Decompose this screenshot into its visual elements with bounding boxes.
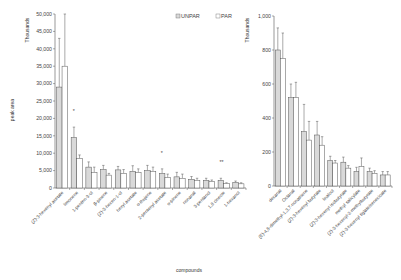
bar-par	[150, 171, 156, 188]
bar-par	[333, 163, 338, 186]
bar-unpar	[218, 180, 224, 188]
significance-marker: **	[220, 159, 224, 165]
y-tick-label: 45,000	[36, 28, 52, 34]
bar-par	[280, 59, 285, 187]
y-axis-label: peak area	[9, 99, 15, 121]
y-tick-label: 200	[262, 149, 271, 155]
legend: UNPAR PAR	[176, 13, 232, 19]
category-label: α-pinene	[166, 190, 183, 207]
bar-par	[320, 145, 325, 186]
left-bar-chart: 05,00010,00015,00020,00025,00030,00035,0…	[30, 11, 246, 225]
significance-marker: *	[73, 108, 75, 114]
bar-unpar	[86, 167, 92, 188]
y-tick-label: 5,000	[39, 167, 52, 173]
bar-unpar	[56, 87, 62, 188]
bar-unpar	[288, 98, 293, 186]
bar-unpar	[275, 50, 280, 186]
bar-unpar	[159, 173, 165, 188]
bar-unpar	[203, 180, 209, 188]
bar-unpar	[233, 182, 239, 188]
y-tick-label: 0	[49, 185, 52, 191]
bar-par	[293, 98, 298, 186]
y-tick-label: 10,000	[36, 150, 52, 156]
y-tick-label: 40,000	[36, 46, 52, 52]
bar-par	[307, 140, 312, 186]
bar-par	[194, 180, 200, 188]
significance-marker: *	[161, 150, 163, 156]
y-tick-label: 50,000	[36, 11, 52, 17]
bar-par	[91, 172, 97, 188]
bar-par	[136, 172, 142, 188]
bar-unpar	[189, 179, 195, 188]
legend-label-par: PAR	[221, 13, 232, 19]
bar-par	[165, 178, 171, 188]
bar-par	[359, 166, 364, 186]
bar-unpar	[145, 171, 151, 188]
bar-par	[62, 66, 68, 188]
bar-unpar	[130, 171, 136, 188]
y-tick-label: 0	[268, 183, 271, 189]
bar-unpar	[302, 132, 307, 186]
y-tick-label: 30,000	[36, 80, 52, 86]
bar-unpar	[71, 138, 77, 188]
category-label: 2-pentenyl acetate	[137, 190, 168, 221]
bar-par	[121, 173, 127, 188]
legend-swatch-par	[216, 14, 220, 18]
bar-unpar	[380, 175, 385, 186]
y-tick-label: 1,000	[258, 13, 271, 19]
bar-par	[238, 184, 244, 188]
bar-unpar	[367, 172, 372, 186]
right-y-unit: Thousands	[244, 17, 250, 42]
y-tick-label: 800	[262, 47, 271, 53]
legend-swatch-unpar	[176, 14, 180, 18]
category-label: (Z)-3-hexenyl acetate	[30, 190, 65, 225]
y-tick-label: 600	[262, 81, 271, 87]
chart-canvas: 05,00010,00015,00020,00025,00030,00035,0…	[0, 0, 401, 280]
category-label: decanal	[268, 188, 283, 203]
left-y-unit: Thousands	[24, 17, 30, 42]
category-label: 1-hexanol	[223, 190, 241, 208]
bar-unpar	[174, 177, 180, 188]
bar-unpar	[315, 135, 320, 186]
bar-unpar	[101, 170, 107, 188]
bar-unpar	[341, 162, 346, 186]
bar-par	[180, 178, 186, 188]
bar-par	[224, 183, 230, 188]
bar-par	[77, 158, 83, 188]
bar-par	[209, 181, 215, 188]
y-tick-label: 15,000	[36, 133, 52, 139]
y-tick-label: 35,000	[36, 63, 52, 69]
bar-par	[346, 168, 351, 186]
bar-par	[106, 175, 112, 188]
bar-par	[372, 173, 377, 186]
category-label: (E)-4,8-dimethyl-1,3,7-nonatriene	[257, 188, 309, 240]
x-axis-label: compounds	[176, 267, 202, 273]
bar-par	[385, 175, 390, 186]
bar-unpar	[354, 172, 359, 186]
y-tick-label: 20,000	[36, 115, 52, 121]
bar-unpar	[115, 170, 121, 188]
y-tick-label: 400	[262, 115, 271, 121]
y-tick-label: 25,000	[36, 98, 52, 104]
legend-label-unpar: UNPAR	[181, 13, 200, 19]
bar-unpar	[328, 161, 333, 187]
right-bar-chart: 02004006008001,000decanalOctanal(E)-4,8-…	[257, 13, 392, 240]
